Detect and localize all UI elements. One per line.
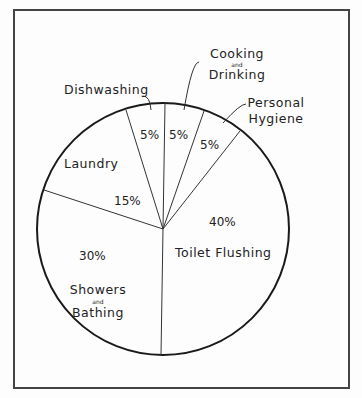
- label-showers: Showers and Bathing: [62, 284, 134, 319]
- label-toilet: Toilet Flushing: [175, 247, 272, 260]
- label-dishwashing: Dishwashing: [64, 84, 149, 97]
- slice-divider: [163, 103, 165, 229]
- slice-divider: [44, 190, 163, 229]
- label-hygiene: Personal Hygiene: [236, 97, 316, 125]
- pie-chart: [0, 0, 362, 398]
- pct-hygiene: 5%: [200, 139, 219, 151]
- label-cooking: Cooking and Drinking: [197, 48, 277, 81]
- leader-dishwashing: [143, 96, 151, 110]
- slice-divider: [161, 229, 163, 355]
- pct-laundry: 15%: [114, 195, 141, 207]
- label-laundry: Laundry: [64, 158, 118, 171]
- pct-cooking: 5%: [169, 129, 188, 141]
- pct-toilet: 40%: [209, 216, 236, 228]
- pct-dishwashing: 5%: [140, 129, 159, 141]
- pct-showers: 30%: [79, 250, 106, 262]
